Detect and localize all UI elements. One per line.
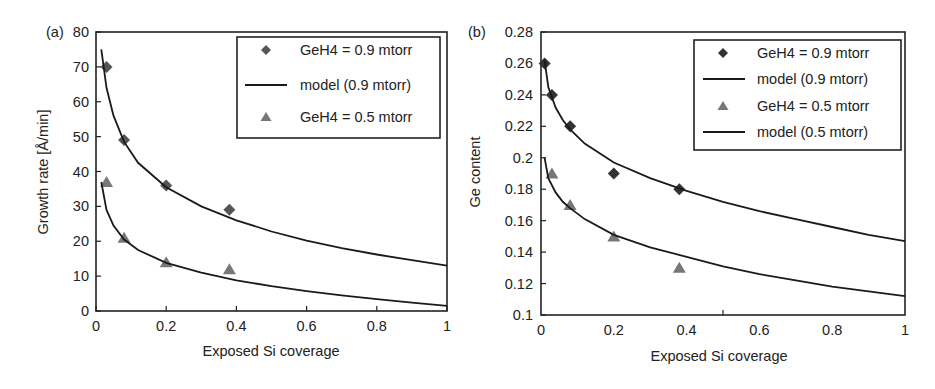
x-tick-label: 0.6	[749, 322, 769, 338]
y-tick-label: 30	[73, 198, 89, 214]
y-tick-label: 0.14	[505, 244, 533, 260]
data-point-triangle	[673, 262, 686, 273]
x-tick-label: 0.4	[226, 318, 246, 334]
legend-label: model (0.5 mtorr)	[757, 124, 868, 140]
legend-label: GeH4 = 0.5 mtorr	[300, 109, 413, 125]
legend-label: GeH4 = 0.5 mtorr	[757, 98, 870, 114]
x-tick-label: 0.2	[604, 322, 624, 338]
y-tick-label: 80	[73, 24, 89, 40]
x-tick-label: 0.2	[156, 318, 176, 334]
legend-label: GeH4 = 0.9 mtorr	[300, 42, 413, 58]
series-line-model-0-5-mtorr	[545, 158, 905, 296]
data-point-diamond	[223, 204, 235, 216]
y-axis-title: Growth rate [Å/min]	[35, 110, 51, 235]
y-tick-label: 0.22	[505, 118, 533, 134]
y-tick-label: 40	[73, 164, 89, 180]
y-tick-label: 0.12	[505, 276, 533, 292]
x-tick-label: 0.8	[822, 322, 842, 338]
y-tick-label: 10	[73, 268, 89, 284]
x-tick-label: 0.8	[367, 318, 387, 334]
data-point-triangle	[223, 263, 236, 274]
panel-label: (a)	[46, 24, 64, 40]
y-tick-label: 50	[73, 129, 89, 145]
y-tick-label: 0.1	[513, 307, 533, 323]
y-tick-label: 0.26	[505, 55, 533, 71]
legend-label: model (0.9 mtorr)	[300, 77, 411, 93]
y-tick-label: 70	[73, 59, 89, 75]
data-point-diamond	[608, 168, 620, 180]
y-tick-label: 0	[81, 303, 89, 319]
y-tick-label: 60	[73, 94, 89, 110]
x-tick-label: 0.6	[297, 318, 317, 334]
x-tick-label: 0	[92, 318, 100, 334]
y-axis-title: Ge content	[467, 137, 483, 208]
x-tick-label: 0	[537, 322, 545, 338]
y-tick-label: 0.2	[513, 150, 533, 166]
x-axis-title: Exposed Si coverage	[202, 343, 339, 359]
y-tick-label: 0.16	[505, 213, 533, 229]
panel-a: 0102030405060708000.20.40.60.81(a)Expose…	[35, 24, 451, 359]
panel-b: 0.10.120.140.160.180.20.220.240.260.2800…	[467, 24, 909, 364]
x-tick-label: 1	[901, 322, 909, 338]
panel-label: (b)	[468, 24, 486, 40]
y-tick-label: 0.24	[505, 87, 533, 103]
series-line-model-0-5-mtorr	[101, 182, 447, 306]
legend-label: GeH4 = 0.9 mtorr	[757, 45, 870, 61]
y-tick-label: 0.18	[505, 181, 533, 197]
x-tick-label: 1	[443, 318, 451, 334]
x-tick-label: 0.4	[677, 322, 697, 338]
y-tick-label: 0.28	[505, 24, 533, 40]
y-tick-label: 20	[73, 233, 89, 249]
figure: 0102030405060708000.20.40.60.81(a)Expose…	[0, 0, 935, 389]
legend-label: model (0.9 mtorr)	[757, 71, 868, 87]
x-axis-title: Exposed Si coverage	[650, 348, 787, 364]
